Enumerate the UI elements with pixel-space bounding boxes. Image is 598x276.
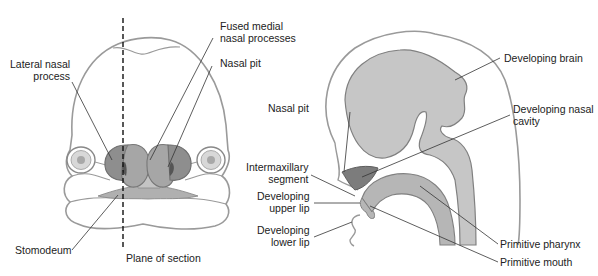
primitive-pharynx bbox=[362, 174, 455, 245]
embryonic-face-diagram: Lateral nasal process Fused medial nasal… bbox=[0, 0, 598, 276]
label-plane-of-section: Plane of section bbox=[126, 252, 201, 264]
label-intermaxillary-segment: Intermaxillary segment bbox=[246, 161, 308, 185]
developing-lower-lip bbox=[350, 215, 360, 246]
sagittal-section bbox=[311, 31, 520, 262]
label-fused-medial-nasal-processes: Fused medial nasal processes bbox=[220, 20, 296, 44]
label-developing-nasal-cavity: Developing nasal cavity bbox=[513, 103, 594, 127]
label-primitive-pharynx: Primitive pharynx bbox=[500, 238, 581, 250]
label-nasal-pit-frontal: Nasal pit bbox=[220, 57, 261, 69]
label-developing-lower-lip: Developing lower lip bbox=[257, 224, 310, 248]
label-stomodeum: Stomodeum bbox=[15, 244, 72, 256]
label-developing-upper-lip: Developing upper lip bbox=[257, 190, 310, 214]
head-outline bbox=[64, 38, 229, 229]
label-developing-brain: Developing brain bbox=[504, 52, 583, 64]
label-lateral-nasal-process: Lateral nasal process bbox=[10, 58, 70, 82]
frontal-face bbox=[64, 18, 229, 250]
label-primitive-mouth: Primitive mouth bbox=[500, 256, 572, 268]
label-nasal-pit-sagittal: Nasal pit bbox=[268, 102, 309, 114]
